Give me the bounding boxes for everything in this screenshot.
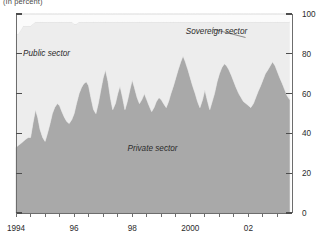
x-tick-label-2000: 2000 [181,224,200,233]
x-tick-label-98: 98 [128,224,138,233]
area-bands [16,14,290,213]
y-tick-label-20: 20 [302,169,312,178]
x-tick-label-96: 96 [70,224,80,233]
y-tick-label-60: 60 [302,90,312,99]
x-tick-label-02: 02 [244,224,254,233]
y-tick-label-40: 40 [302,129,312,138]
x-tick-label-1994: 1994 [7,224,26,233]
public-sector-label: Public sector [23,49,70,58]
sovereign-sector-label: Sovereign sector [186,27,248,36]
y-tick-label-100: 100 [302,10,316,19]
y-tick-label-80: 80 [302,50,312,59]
stacked-area-plot: 020406080100 19949698200002 Public secto… [0,0,328,247]
private-sector-label: Private sector [128,144,178,153]
x-axis-ticks: 19949698200002 [7,213,278,233]
y-tick-label-0: 0 [302,209,307,218]
chart-figure: (In percent) 020406080100 19949698200002… [0,0,328,247]
